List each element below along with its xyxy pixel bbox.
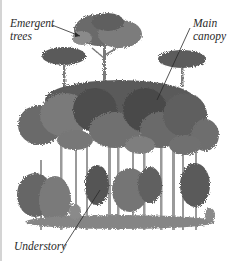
forest-layers-figure: Emergent trees Main canopy Understory <box>0 0 240 261</box>
label-understory: Understory <box>14 240 66 253</box>
main-canopy <box>18 80 219 155</box>
emergent-trees <box>42 13 206 90</box>
label-emergent-line2: trees <box>10 30 54 43</box>
label-emergent-trees: Emergent trees <box>10 17 54 43</box>
label-canopy-line2: canopy <box>193 30 226 43</box>
understory-vegetation <box>17 163 215 229</box>
label-main-canopy: Main canopy <box>193 17 226 43</box>
label-canopy-line1: Main <box>193 17 226 30</box>
label-understory-line1: Understory <box>14 240 66 253</box>
label-emergent-line1: Emergent <box>10 17 54 30</box>
